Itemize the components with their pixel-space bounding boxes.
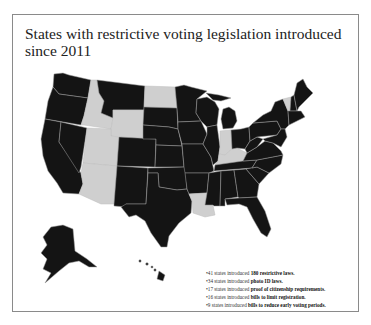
- state-kansas: [155, 145, 184, 167]
- note-item: •9 states introduced bills to reduce ear…: [206, 301, 326, 309]
- state-florida: [225, 197, 271, 237]
- state-maine: [294, 79, 313, 111]
- note-item: •41 states introduced 180 restrictive la…: [206, 269, 326, 277]
- state-arkansas: [185, 173, 209, 194]
- state-arizona: [79, 163, 117, 204]
- statistics-notes: •41 states introduced 180 restrictive la…: [206, 269, 326, 309]
- note-item: •16 states introduced bills to limit reg…: [206, 293, 326, 301]
- state-massachusetts-ct-ri: [288, 111, 305, 125]
- state-hawaii: [139, 260, 165, 281]
- state-alaska: [41, 225, 97, 283]
- state-north-dakota: [144, 86, 177, 108]
- note-item: •17 states introduced proof of citizensh…: [206, 285, 326, 293]
- state-new-mexico: [114, 166, 148, 207]
- state-wyoming: [111, 110, 144, 139]
- state-iowa: [178, 121, 207, 144]
- note-item: •34 states introduced photo ID laws.: [206, 277, 326, 285]
- map-figure-frame: States with restrictive voting legislati…: [12, 14, 359, 312]
- state-colorado: [117, 137, 156, 167]
